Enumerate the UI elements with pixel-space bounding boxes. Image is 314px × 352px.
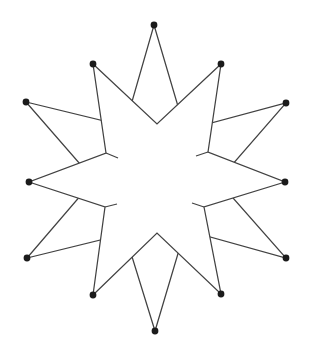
vertex-dot bbox=[218, 61, 225, 68]
vertex-dot bbox=[218, 291, 225, 298]
vertex-dot bbox=[90, 292, 97, 299]
star-diagram-canvas bbox=[0, 0, 314, 352]
vertex-dot bbox=[24, 255, 31, 262]
vertex-dot bbox=[282, 179, 289, 186]
vertex-dot bbox=[90, 61, 97, 68]
vertex-dot bbox=[26, 179, 33, 186]
vertex-dot bbox=[283, 100, 290, 107]
vertex-dot bbox=[23, 99, 30, 106]
front-star-outline bbox=[29, 64, 285, 295]
front-star-layer bbox=[29, 64, 285, 295]
vertex-dot bbox=[152, 328, 159, 335]
vertex-dot bbox=[151, 22, 158, 29]
star-figure bbox=[0, 0, 314, 352]
vertex-dot bbox=[283, 255, 290, 262]
